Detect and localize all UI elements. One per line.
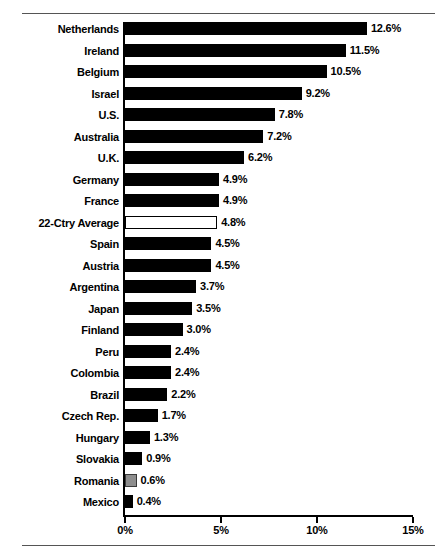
category-label: U.K.: [0, 151, 119, 165]
bar-row: Netherlands12.6%: [0, 22, 447, 44]
category-label: Slovakia: [0, 452, 119, 466]
x-axis-tick-label: 15%: [383, 524, 443, 536]
bar-row: Mexico0.4%: [0, 495, 447, 517]
category-label: U.S.: [0, 108, 119, 122]
category-label: Romania: [0, 474, 119, 488]
bar-row: U.K.6.2%: [0, 151, 447, 173]
category-label: Finland: [0, 323, 119, 337]
bar-row: 22-Ctry Average4.8%: [0, 216, 447, 238]
bar-value-label: 4.5%: [215, 237, 239, 250]
bar-france[interactable]: [125, 194, 219, 207]
x-axis-tick-mark: [316, 517, 318, 523]
category-label: Australia: [0, 130, 119, 144]
bar-romania[interactable]: [125, 474, 137, 487]
bar-row: Japan3.5%: [0, 302, 447, 324]
bar-row: Brazil2.2%: [0, 388, 447, 410]
bottom-divider-rule: [22, 545, 435, 546]
bar-row: U.S.7.8%: [0, 108, 447, 130]
category-label: Austria: [0, 259, 119, 273]
bar-finland[interactable]: [125, 323, 183, 336]
bar-japan[interactable]: [125, 302, 192, 315]
x-axis-tick-label: 0%: [95, 524, 155, 536]
bar-czech-rep[interactable]: [125, 409, 158, 422]
category-label: Japan: [0, 302, 119, 316]
bar-value-label: 7.2%: [267, 130, 291, 143]
bar-row: Slovakia0.9%: [0, 452, 447, 474]
bar-u-k[interactable]: [125, 151, 244, 164]
x-axis-tick-mark: [124, 517, 126, 523]
bar-brazil[interactable]: [125, 388, 167, 401]
category-label: 22-Ctry Average: [0, 216, 119, 230]
bar-value-label: 3.0%: [187, 323, 211, 336]
bar-argentina[interactable]: [125, 280, 196, 293]
bar-value-label: 0.6%: [141, 474, 165, 487]
bar-austria[interactable]: [125, 259, 211, 272]
bar-slovakia[interactable]: [125, 452, 142, 465]
bar-mexico[interactable]: [125, 495, 133, 508]
category-label: Israel: [0, 87, 119, 101]
bar-row: Belgium10.5%: [0, 65, 447, 87]
category-label: Argentina: [0, 280, 119, 294]
bar-value-label: 2.4%: [175, 345, 199, 358]
category-label: Colombia: [0, 366, 119, 380]
bar-value-label: 7.8%: [279, 108, 303, 121]
bar-value-label: 6.2%: [248, 151, 272, 164]
bar-value-label: 2.4%: [175, 366, 199, 379]
bar-value-label: 4.8%: [221, 216, 245, 229]
bar-row: Australia7.2%: [0, 130, 447, 152]
bar-row: Spain4.5%: [0, 237, 447, 259]
bar-germany[interactable]: [125, 173, 219, 186]
bar-row: Finland3.0%: [0, 323, 447, 345]
bar-value-label: 0.4%: [137, 495, 161, 508]
category-label: Germany: [0, 173, 119, 187]
bar-value-label: 3.5%: [196, 302, 220, 315]
bar-row: Peru2.4%: [0, 345, 447, 367]
bar-value-label: 2.2%: [171, 388, 195, 401]
bar-u-s[interactable]: [125, 108, 275, 121]
category-label: Ireland: [0, 44, 119, 58]
bar-ireland[interactable]: [125, 44, 346, 57]
bar-chart-plot-area: Netherlands12.6%Ireland11.5%Belgium10.5%…: [0, 0, 447, 545]
category-label: Netherlands: [0, 22, 119, 36]
category-label: Czech Rep.: [0, 409, 119, 423]
bar-israel[interactable]: [125, 87, 302, 100]
bar-value-label: 4.9%: [223, 194, 247, 207]
bar-row: Germany4.9%: [0, 173, 447, 195]
bar-spain[interactable]: [125, 237, 211, 250]
bar-value-label: 12.6%: [371, 22, 401, 35]
bar-row: Argentina3.7%: [0, 280, 447, 302]
chart-page: Netherlands12.6%Ireland11.5%Belgium10.5%…: [0, 0, 447, 557]
category-label: Mexico: [0, 495, 119, 509]
bar-value-label: 4.9%: [223, 173, 247, 186]
bar-australia[interactable]: [125, 130, 263, 143]
x-axis-tick-label: 10%: [287, 524, 347, 536]
bar-peru[interactable]: [125, 345, 171, 358]
bar-row: Romania0.6%: [0, 474, 447, 496]
bar-value-label: 11.5%: [350, 44, 380, 57]
bar-value-label: 10.5%: [331, 65, 361, 78]
bar-colombia[interactable]: [125, 366, 171, 379]
category-label: Hungary: [0, 431, 119, 445]
bar-hungary[interactable]: [125, 431, 150, 444]
bar-row: Israel9.2%: [0, 87, 447, 109]
bar-row: Hungary1.3%: [0, 431, 447, 453]
bar-value-label: 9.2%: [306, 87, 330, 100]
category-label: Brazil: [0, 388, 119, 402]
bar-row: Ireland11.5%: [0, 44, 447, 66]
category-label: Belgium: [0, 65, 119, 79]
bar-row: Colombia2.4%: [0, 366, 447, 388]
bar-value-label: 4.5%: [215, 259, 239, 272]
x-axis-tick-label: 5%: [191, 524, 251, 536]
bar-22-ctry-average[interactable]: [125, 216, 217, 229]
x-axis-tick-mark: [220, 517, 222, 523]
bar-row: Czech Rep.1.7%: [0, 409, 447, 431]
category-label: France: [0, 194, 119, 208]
category-label: Spain: [0, 237, 119, 251]
bar-netherlands[interactable]: [125, 22, 367, 35]
bar-belgium[interactable]: [125, 65, 327, 78]
bar-row: Austria4.5%: [0, 259, 447, 281]
bar-value-label: 1.7%: [162, 409, 186, 422]
bar-row: France4.9%: [0, 194, 447, 216]
bar-value-label: 1.3%: [154, 431, 178, 444]
category-label: Peru: [0, 345, 119, 359]
